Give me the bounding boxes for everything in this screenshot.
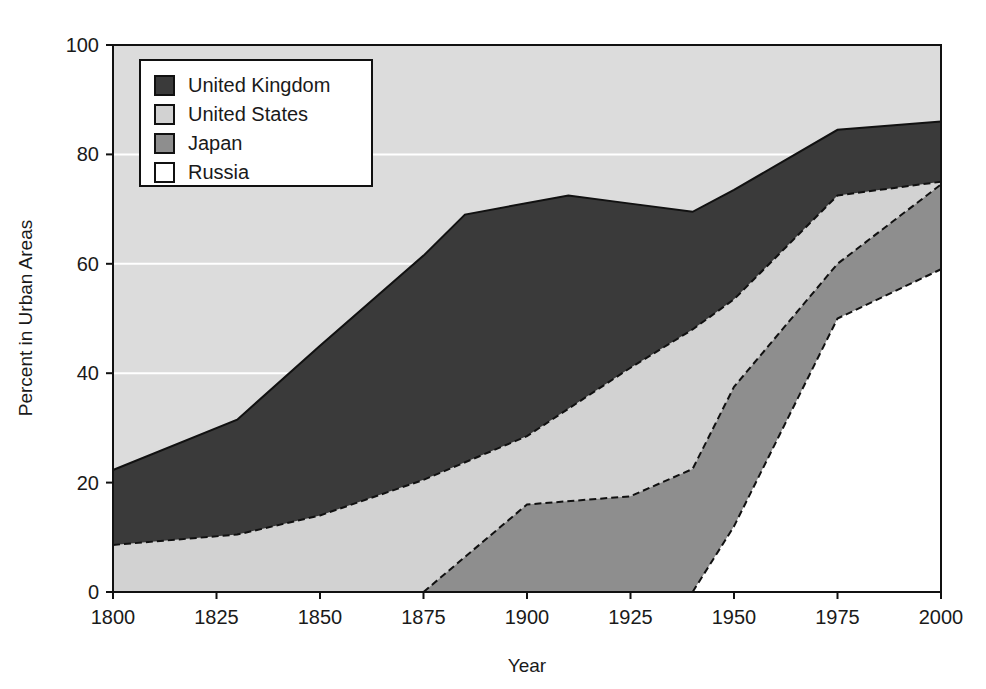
y-tick-label: 80 bbox=[77, 143, 99, 165]
x-tick-label: 1800 bbox=[91, 606, 136, 628]
legend-label: United States bbox=[188, 103, 308, 125]
x-tick-label: 1850 bbox=[298, 606, 343, 628]
legend-swatch bbox=[155, 163, 174, 182]
x-tick-label: 1925 bbox=[608, 606, 653, 628]
urbanization-area-chart: 180018251850187519001925195019752000 020… bbox=[0, 0, 986, 689]
y-tick-label: 20 bbox=[77, 472, 99, 494]
y-axis-title: Percent in Urban Areas bbox=[15, 220, 36, 416]
y-tick-label: 0 bbox=[88, 581, 99, 603]
x-tick-label: 1900 bbox=[505, 606, 550, 628]
legend-label: Russia bbox=[188, 161, 250, 183]
y-tick-label: 100 bbox=[66, 34, 99, 56]
chart-legend: United KingdomUnited StatesJapanRussia bbox=[140, 60, 372, 186]
x-axis-title: Year bbox=[508, 655, 547, 676]
legend-swatch bbox=[155, 105, 174, 124]
x-tick-label: 2000 bbox=[919, 606, 964, 628]
x-tick-label: 1950 bbox=[712, 606, 757, 628]
y-tick-label: 40 bbox=[77, 362, 99, 384]
chart-figure: 180018251850187519001925195019752000 020… bbox=[0, 0, 986, 689]
legend-label: United Kingdom bbox=[188, 74, 330, 96]
legend-label: Japan bbox=[188, 132, 243, 154]
x-tick-label: 1825 bbox=[194, 606, 239, 628]
x-tick-label: 1875 bbox=[401, 606, 446, 628]
legend-swatch bbox=[155, 134, 174, 153]
legend-swatch bbox=[155, 76, 174, 95]
x-tick-label: 1975 bbox=[815, 606, 860, 628]
y-tick-label: 60 bbox=[77, 253, 99, 275]
